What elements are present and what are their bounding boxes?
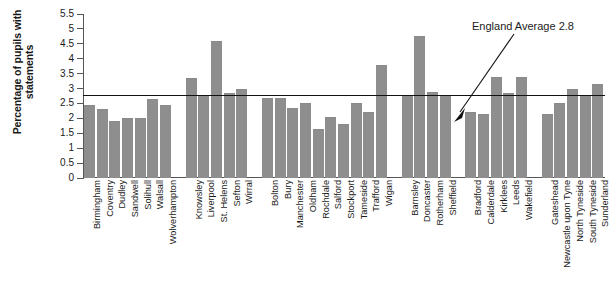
x-axis-label-text: Tameside [360,180,369,219]
x-axis-label: Liverpool [207,180,216,217]
x-axis-label-text: Wakefield [525,180,534,220]
x-axis-label-text: Liverpool [207,180,216,217]
bar [580,95,591,178]
x-axis-label: Stockport [347,180,356,219]
x-axis-label: Sunderland [601,180,610,227]
y-axis-tick-mark [77,103,84,104]
y-axis-tick-mark [77,148,84,149]
x-axis-label-text: Knowsley [195,180,204,219]
bar [109,121,120,178]
bar [325,117,336,178]
bar [592,84,603,178]
bar [300,103,311,178]
x-axis-label: Barnsley [411,180,420,216]
x-axis-label-text: Sheffield [449,180,458,216]
bar [491,77,502,178]
x-axis-label-text: Leeds [512,180,521,205]
x-axis-label: Salford [334,180,343,209]
bar [160,105,171,178]
x-axis-label: Rochdale [322,180,331,219]
bar [186,78,197,178]
x-axis-label: Bradford [474,180,483,215]
y-axis-tick-label: 3.5 [60,69,77,79]
y-axis-tick-label: 5 [68,24,77,34]
y-axis-tick-mark [77,14,84,15]
x-axis-label-text: Rotherham [436,180,445,225]
x-axis-label-text: North Tyneside [576,180,585,242]
x-axis-label-text: Kirklees [500,180,509,213]
bar [427,92,438,178]
x-axis-label: Leeds [512,180,521,205]
bar [567,89,578,178]
x-axis-label: Tameside [360,180,369,219]
x-axis-label: Birmingham [93,180,102,229]
y-axis-tick-mark [77,28,84,29]
y-axis-tick-label: 3 [68,84,77,94]
x-axis-label: Wolverhampton [169,180,178,244]
x-axis-label: Calderdale [487,180,496,224]
x-axis-label-text: Oldham [309,180,318,212]
x-axis-label-text: South Tyneside [589,180,598,243]
bar [275,98,286,179]
x-axis-label: Knowsley [195,180,204,219]
x-axis-label-text: Calderdale [487,180,496,224]
x-axis-label: Wigan [385,180,394,206]
x-axis-label: Gateshead [551,180,560,225]
bar [84,105,95,178]
plot-area: 00.511.522.533.544.555.5 [83,14,605,178]
y-axis-tick-label: 2 [68,113,77,123]
y-axis-tick-mark [77,133,84,134]
x-axis-label: Newcastle upon Tyne [563,180,572,268]
bar [313,129,324,178]
y-axis-tick-mark [77,43,84,44]
x-axis-label-text: Bradford [474,180,483,215]
x-axis-label-text: Newcastle upon Tyne [563,180,572,268]
x-axis-label-text: Doncaster [423,180,432,222]
bar [147,99,158,178]
bars-layer [84,14,605,178]
bar [338,124,349,178]
x-axis-label-text: Birmingham [93,180,102,229]
x-axis-label: Sandwell [131,180,140,217]
y-axis-title-line-2: statements [23,45,35,99]
bar [363,112,374,178]
bar [503,93,514,178]
x-axis-label: St. Helens [220,180,229,222]
x-axis-label-text: Dudley [118,180,127,209]
bar [287,108,298,178]
bar [351,103,362,178]
x-axis-label-text: Rochdale [322,180,331,219]
y-axis-tick-label: 5.5 [60,9,77,19]
y-axis-tick-mark [77,163,84,164]
x-axis-label-text: Stockport [347,180,356,219]
y-axis-tick-label: 0 [68,173,77,183]
x-axis-label: North Tyneside [576,180,585,242]
x-axis-label: Oldham [309,180,318,212]
x-axis-label: Walsall [156,180,165,209]
x-axis-label: Rotherham [436,180,445,225]
bar [440,95,451,178]
bar [224,93,235,178]
england-average-annotation-label: England Average 2.8 [472,20,574,32]
x-axis-label-text: Salford [334,180,343,209]
bar-chart: Percentage of pupils with statements 00.… [0,0,613,296]
y-axis-tick-mark [77,178,84,179]
x-axis-label-text: Sefton [233,180,242,207]
x-axis-label-text: Manchester [296,180,305,228]
x-axis-label-text: Wolverhampton [169,180,178,244]
y-axis-title-line-1: Percentage of pupils with [11,10,23,135]
x-axis-label: Trafford [372,180,381,212]
x-axis-label-text: Walsall [156,180,165,209]
x-axis-label: Sheffield [449,180,458,216]
x-axis-labels: BirminghamCoventryDudleySandwellSolihull… [84,180,605,294]
x-axis-label-text: Wirral [245,180,254,204]
x-axis-label: Bolton [271,180,280,206]
bar [478,114,489,178]
y-axis-tick-label: 4.5 [60,39,77,49]
bar [211,41,222,178]
x-axis-label-text: Bolton [271,180,280,206]
x-axis-label: Dudley [118,180,127,209]
x-axis-label: Sefton [233,180,242,207]
england-average-line [83,95,605,96]
y-axis-tick-label: 1 [68,143,77,153]
